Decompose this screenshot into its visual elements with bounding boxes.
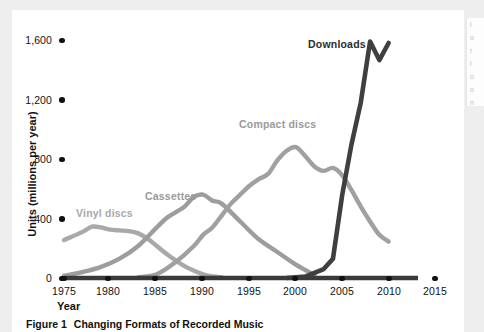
series-label-compact-discs: Compact discs xyxy=(239,118,316,130)
x-tick-dot-1995 xyxy=(246,276,252,282)
series-label-cassettes: Cassettes xyxy=(145,190,196,202)
y-tick-label-1600: 1,600 xyxy=(0,34,52,46)
y-tick-dot-1600 xyxy=(59,38,65,44)
y-tick-label-1200: 1,200 xyxy=(0,94,52,106)
y-tick-dot-800 xyxy=(59,157,65,163)
figure-caption-text: Changing Formats of Recorded Music xyxy=(74,318,264,330)
y-tick-dot-400 xyxy=(59,216,65,222)
x-tick-label-2010: 2010 xyxy=(368,285,410,297)
x-tick-dot-2010 xyxy=(386,276,392,282)
x-tick-dot-1985 xyxy=(152,276,158,282)
x-tick-dot-2000 xyxy=(292,276,298,282)
x-tick-label-1980: 1980 xyxy=(87,285,129,297)
x-tick-label-2000: 2000 xyxy=(274,285,316,297)
x-tick-label-1975: 1975 xyxy=(43,285,85,297)
x-tick-label-2015: 2015 xyxy=(414,285,456,297)
x-tick-label-1990: 1990 xyxy=(181,285,223,297)
x-tick-dot-1980 xyxy=(105,276,111,282)
figure-caption-number: Figure 1 xyxy=(26,318,67,330)
figure-page: l o r l o o n 1,600 1,200 800 400 0 1975… xyxy=(0,0,484,332)
y-axis-title: Units (millions per year) xyxy=(26,107,38,242)
series-group xyxy=(64,41,389,278)
series-label-vinyl-discs: Vinyl discs xyxy=(76,207,133,219)
series-label-downloads: Downloads xyxy=(308,38,366,50)
x-tick-dot-2005 xyxy=(339,276,345,282)
line-chart: 1,600 1,200 800 400 0 1975 1980 1985 199… xyxy=(0,0,484,305)
x-tick-label-2005: 2005 xyxy=(321,285,363,297)
x-tick-dot-1975 xyxy=(61,276,67,282)
x-axis-title: Year xyxy=(57,300,80,312)
series-line-downloads xyxy=(287,41,389,278)
x-tick-dot-1990 xyxy=(199,276,205,282)
x-tick-label-1985: 1985 xyxy=(134,285,176,297)
x-tick-dot-2015 xyxy=(432,276,438,282)
y-tick-dot-1200 xyxy=(59,97,65,103)
y-tick-label-0: 0 xyxy=(0,272,52,284)
figure-caption: Figure 1Changing Formats of Recorded Mus… xyxy=(26,318,263,330)
chart-plot-svg xyxy=(0,0,484,305)
x-tick-label-1995: 1995 xyxy=(228,285,270,297)
